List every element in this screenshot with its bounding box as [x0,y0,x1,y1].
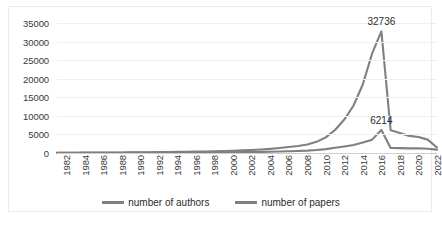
x-axis-tick-label: 1990 [135,155,146,176]
data-point-label: 32736 [367,16,395,27]
x-axis-tick-label: 2018 [395,155,406,176]
x-axis-tick-label: 1982 [61,155,72,176]
x-axis-tick-label: 1994 [172,155,183,176]
data-point-label: 6214 [370,115,392,126]
y-axis-tick-label: 25000 [23,55,49,66]
legend-line-swatch-icon [102,201,124,204]
chart-container: 05000100001500020000250003000035000 3273… [8,6,432,212]
x-axis-tick-label: 2022 [432,155,442,176]
x-axis-tick-label: 2016 [376,155,387,176]
gridline [57,79,437,80]
y-axis-tick-label: 15000 [23,92,49,103]
legend-item[interactable]: number of papers [235,197,339,208]
legend-label: number of papers [261,197,339,208]
gridline [57,97,437,98]
y-axis-tick-label: 30000 [23,36,49,47]
y-axis-tick-label: 10000 [23,110,49,121]
gridline [57,153,437,154]
x-axis-tick-label: 1996 [191,155,202,176]
x-axis-tick-label: 2020 [413,155,424,176]
x-axis-tick-label: 1986 [98,155,109,176]
gridline [57,60,437,61]
gridline [57,134,437,135]
x-axis-tick-label: 1998 [209,155,220,176]
y-axis-tick-label: 35000 [23,18,49,29]
x-axis-tick-label: 2008 [302,155,313,176]
x-axis-tick-label: 2006 [283,155,294,176]
plot-area: 327366214 [57,23,437,153]
x-axis-tick-label: 2002 [246,155,257,176]
legend-line-swatch-icon [235,201,257,204]
y-axis: 05000100001500020000250003000035000 [9,23,53,153]
y-axis-tick-label: 0 [44,148,49,159]
x-axis: 1982198419861988199019921994199619982000… [57,155,437,195]
x-axis-tick-label: 1988 [117,155,128,176]
x-axis-tick-label: 1992 [154,155,165,176]
x-axis-tick-label: 2010 [321,155,332,176]
chart-legend: number of authorsnumber of papers [9,197,433,208]
x-axis-tick-label: 2004 [265,155,276,176]
x-axis-tick-label: 1984 [80,155,91,176]
legend-label: number of authors [128,197,209,208]
y-axis-tick-label: 5000 [28,129,49,140]
legend-item[interactable]: number of authors [102,197,209,208]
x-axis-tick-label: 2000 [228,155,239,176]
x-axis-tick-label: 2012 [339,155,350,176]
y-axis-tick-label: 20000 [23,73,49,84]
x-axis-tick-label: 2014 [358,155,369,176]
gridline [57,42,437,43]
